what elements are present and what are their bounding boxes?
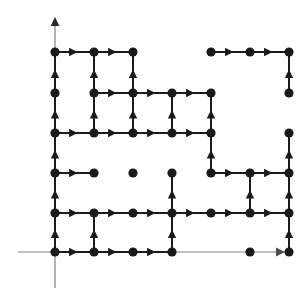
grid-node (284, 128, 293, 137)
edge-arrowhead-up (51, 229, 59, 238)
edge-arrowhead-up (207, 110, 215, 119)
edge-arrowhead-up (129, 110, 137, 119)
edge-arrowhead-up (90, 69, 98, 78)
edge-arrowhead-up (168, 229, 176, 238)
edge-arrowhead-right (147, 129, 156, 137)
edge-arrowhead-up (168, 110, 176, 119)
grid-node (167, 208, 176, 217)
edge-arrowhead-up (285, 229, 293, 238)
edge-arrowhead-up (51, 110, 59, 119)
edge-arrowhead-right (264, 209, 273, 217)
grid-node (245, 208, 254, 217)
grid-node (245, 168, 254, 177)
edge-arrowhead-right (108, 48, 117, 56)
grid-node (128, 128, 137, 137)
edge-arrowhead-up (51, 150, 59, 159)
lattice-diagram-canvas (0, 0, 296, 305)
grid-node (50, 247, 59, 256)
grid-node (128, 168, 137, 177)
grid-node (167, 128, 176, 137)
grid-node (206, 128, 215, 137)
grid-node (128, 47, 137, 56)
edge-arrowhead-right (186, 89, 195, 97)
axes-group (18, 17, 285, 288)
edge-arrowhead-up (207, 150, 215, 159)
grid-node (89, 247, 98, 256)
edge-arrowhead-right (69, 48, 78, 56)
edge-arrowhead-right (147, 209, 156, 217)
edges-group (55, 52, 289, 252)
lattice-diagram-figure (0, 0, 296, 305)
grid-node (89, 208, 98, 217)
edge-arrowhead-right (186, 209, 195, 217)
grid-node (50, 128, 59, 137)
grid-node (89, 47, 98, 56)
edge-arrowhead-right (69, 169, 78, 177)
edge-arrowhead-up (246, 190, 254, 199)
grid-node (50, 168, 59, 177)
edge-arrowhead-right (225, 48, 234, 56)
edge-arrowhead-up (285, 69, 293, 78)
edge-arrowhead-right (69, 248, 78, 256)
edge-arrowhead-right (108, 248, 117, 256)
x-axis-arrowhead (276, 248, 285, 257)
edge-arrowhead-up (51, 69, 59, 78)
grid-node (128, 208, 137, 217)
grid-node (128, 88, 137, 97)
grid-node (89, 168, 98, 177)
edge-arrowhead-right (147, 89, 156, 97)
edge-arrowhead-up (90, 229, 98, 238)
edge-arrowhead-right (108, 89, 117, 97)
edge-arrowhead-right (225, 169, 234, 177)
grid-node (206, 88, 215, 97)
grid-node (167, 168, 176, 177)
y-axis-arrowhead (51, 17, 60, 26)
grid-node (284, 47, 293, 56)
edge-arrowhead-right (108, 209, 117, 217)
edge-arrowhead-up (285, 150, 293, 159)
grid-node (284, 88, 293, 97)
edge-arrowhead-up (285, 190, 293, 199)
grid-node (167, 88, 176, 97)
grid-node (128, 247, 137, 256)
grid-node (245, 47, 254, 56)
edge-arrowhead-right (264, 48, 273, 56)
edge-arrowhead-up (51, 190, 59, 199)
grid-node (206, 208, 215, 217)
grid-node (89, 128, 98, 137)
grid-node (50, 208, 59, 217)
grid-node (284, 247, 293, 256)
edge-arrowhead-right (69, 129, 78, 137)
edge-arrowhead-up (90, 110, 98, 119)
edge-arrowhead-right (186, 129, 195, 137)
grid-node (167, 247, 176, 256)
grid-node (50, 88, 59, 97)
edge-arrowhead-right (69, 209, 78, 217)
edge-arrowhead-right (264, 169, 273, 177)
grid-node (245, 247, 254, 256)
grid-node (89, 88, 98, 97)
grid-node (50, 47, 59, 56)
edge-arrowhead-right (147, 248, 156, 256)
grid-node (206, 168, 215, 177)
grid-node (206, 47, 215, 56)
grid-node (284, 208, 293, 217)
edge-arrowhead-up (168, 190, 176, 199)
grid-node (284, 168, 293, 177)
edge-arrowhead-right (108, 129, 117, 137)
edge-arrowhead-up (129, 69, 137, 78)
edge-arrowhead-right (225, 209, 234, 217)
